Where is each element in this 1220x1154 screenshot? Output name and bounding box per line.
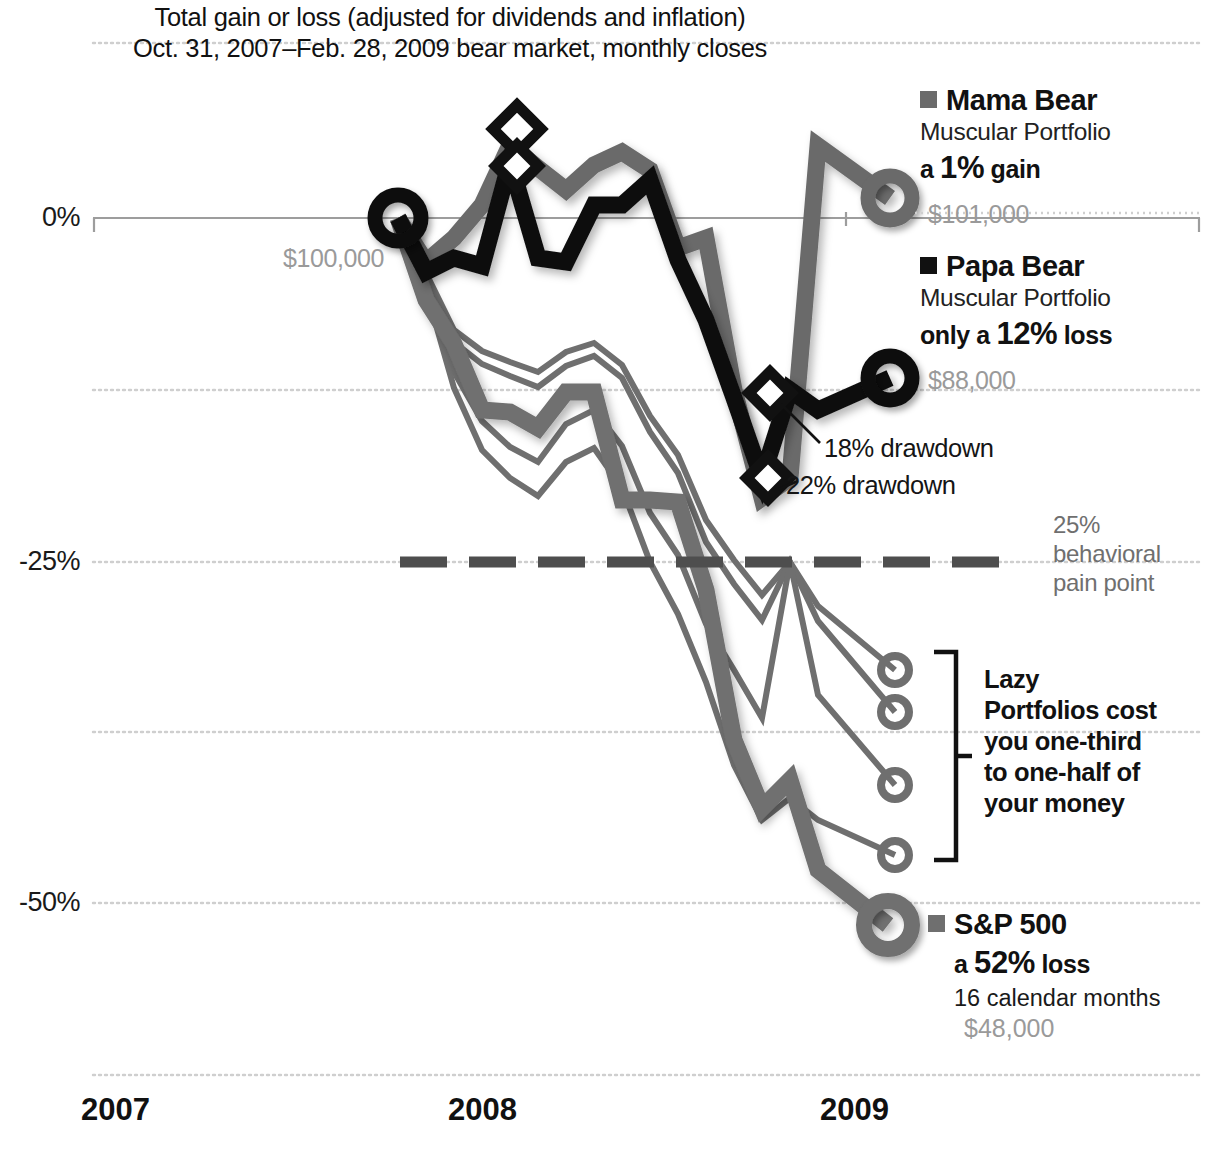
legend-stat-post-papa: loss bbox=[1057, 321, 1112, 349]
legend-swatch-sp500 bbox=[928, 915, 945, 932]
legend-label-papa-bear: Papa Bear bbox=[946, 250, 1084, 282]
x-axis-tick-2007: 2007 bbox=[81, 1092, 150, 1128]
bracket-line-1: Lazy bbox=[984, 664, 1157, 695]
lazy-line-2 bbox=[398, 218, 895, 712]
zero-baseline bbox=[93, 212, 1200, 232]
legend-stat-value-mama: 1% bbox=[940, 150, 984, 185]
chart-subtitle: Total gain or loss (adjusted for dividen… bbox=[0, 2, 900, 64]
bracket-line-2: Portfolios cost bbox=[984, 695, 1157, 726]
lazy-bracket-note: Lazy Portfolios cost you one-third to on… bbox=[984, 664, 1157, 819]
legend-swatch-mama-bear bbox=[920, 91, 937, 108]
drawdown-18-label: 18% drawdown bbox=[824, 434, 994, 463]
legend-item-mama-bear[interactable]: Mama Bear Muscular Portfolio a 1% gain bbox=[920, 84, 1111, 186]
legend-label-mama-bear: Mama Bear bbox=[946, 84, 1097, 116]
chart-canvas: Bear markets, stepping Total gain or los… bbox=[0, 0, 1220, 1154]
legend-stat-pre-mama: a bbox=[920, 155, 940, 183]
legend-item-sp500[interactable]: S&P 500 a 52% loss 16 calendar months $4… bbox=[928, 908, 1160, 1043]
legend-stat-sp500: a 52% loss bbox=[954, 945, 1160, 981]
legend-item-papa-bear[interactable]: Papa Bear Muscular Portfolio only a 12% … bbox=[920, 250, 1112, 352]
mama-value-label: $101,000 bbox=[928, 200, 1029, 229]
lazy-bracket bbox=[934, 652, 972, 860]
start-value-label: $100,000 bbox=[283, 244, 384, 273]
lazy-line-4 bbox=[398, 218, 895, 855]
legend-stat-value-sp500: 52% bbox=[974, 945, 1035, 980]
pain-point-line-2: behavioral bbox=[1053, 539, 1161, 568]
legend-stat-papa-bear: only a 12% loss bbox=[920, 316, 1112, 352]
subtitle-line-1: Total gain or loss (adjusted for dividen… bbox=[0, 2, 900, 33]
legend-stat-post-sp500: loss bbox=[1035, 950, 1090, 978]
lazy-portfolio-lines bbox=[398, 218, 895, 855]
y-axis-tick-25: -25% bbox=[0, 546, 80, 577]
bracket-line-5: your money bbox=[984, 788, 1157, 819]
legend-stat-pre-papa: only a bbox=[920, 321, 996, 349]
pain-point-line-1: 25% bbox=[1053, 510, 1161, 539]
legend-duration-sp500: 16 calendar months bbox=[954, 985, 1160, 1012]
subtitle-line-2: Oct. 31, 2007–Feb. 28, 2009 bear market,… bbox=[0, 33, 900, 64]
x-axis-tick-2009: 2009 bbox=[820, 1092, 889, 1128]
legend-stat-post-mama: gain bbox=[984, 155, 1040, 183]
legend-sub-mama-bear: Muscular Portfolio bbox=[920, 118, 1111, 146]
legend-money-sp500: $48,000 bbox=[964, 1014, 1160, 1043]
y-axis-tick-0: 0% bbox=[0, 202, 80, 233]
legend-sub-papa-bear: Muscular Portfolio bbox=[920, 284, 1112, 312]
pain-point-note: 25% behavioral pain point bbox=[1053, 510, 1161, 597]
mama-bear-line bbox=[398, 145, 890, 498]
legend-stat-mama-bear: a 1% gain bbox=[920, 150, 1111, 186]
legend-label-sp500: S&P 500 bbox=[954, 908, 1067, 940]
legend-stat-value-papa: 12% bbox=[996, 316, 1057, 351]
bracket-line-4: to one-half of bbox=[984, 757, 1157, 788]
bracket-line-3: you one-third bbox=[984, 726, 1157, 757]
drawdown-22-label: 22% drawdown bbox=[786, 471, 956, 500]
legend-stat-pre-sp500: a bbox=[954, 950, 974, 978]
x-axis-tick-2008: 2008 bbox=[448, 1092, 517, 1128]
legend-swatch-papa-bear bbox=[920, 257, 937, 274]
y-axis-tick-50: -50% bbox=[0, 887, 80, 918]
papa-value-label: $88,000 bbox=[928, 366, 1016, 395]
pain-point-line-3: pain point bbox=[1053, 568, 1161, 597]
lazy-line-1 bbox=[398, 218, 895, 670]
